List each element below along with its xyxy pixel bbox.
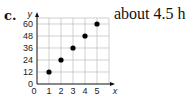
data-point <box>46 69 51 74</box>
data-point <box>58 57 63 62</box>
x-tick-label: 3 <box>70 86 75 96</box>
y-tick-label: 60 <box>23 19 33 29</box>
data-point <box>82 33 87 38</box>
y-tick-label: 24 <box>23 55 33 65</box>
x-tick-label: 4 <box>82 86 87 96</box>
x-tick-label: 2 <box>58 86 63 96</box>
y-axis-label: y <box>27 9 33 19</box>
x-tick-label: 1 <box>46 86 51 96</box>
y-axis-arrow-icon <box>35 12 39 17</box>
data-point <box>70 45 75 50</box>
x-tick-label: 5 <box>94 86 99 96</box>
y-tick-label: 36 <box>23 43 33 53</box>
data-point <box>94 21 99 26</box>
x-tick-label: 0 <box>31 86 36 96</box>
x-axis-label: x <box>112 86 118 96</box>
answer-text: about 4.5 h <box>114 5 186 23</box>
y-tick-label: 48 <box>23 31 33 41</box>
y-tick-label: 12 <box>23 67 33 77</box>
